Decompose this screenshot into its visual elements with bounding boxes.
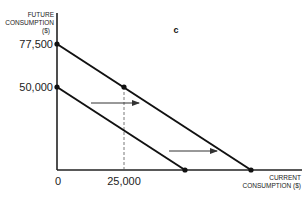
panel-label: c	[173, 25, 178, 35]
y-axis-title-line3: ($)	[42, 27, 50, 35]
x-tick-25000: 25,000	[107, 175, 141, 187]
point-y-77500	[54, 41, 59, 46]
budget-line-original	[57, 87, 185, 170]
point-x-original	[182, 167, 187, 172]
point-x-shifted	[248, 167, 253, 172]
point-y-50000	[54, 84, 59, 89]
point-25000-50000	[121, 84, 126, 89]
x-axis-title-line2: CONSUMPTION ($)	[243, 182, 302, 190]
y-axis-title-line2: CONSUMPTION	[5, 19, 54, 26]
x-axis-title-line1: CURRENT	[269, 174, 301, 181]
y-axis-title-line1: FUTURE	[28, 11, 55, 18]
y-tick-50000: 50,000	[19, 81, 53, 93]
budget-line-chart: FUTURE CONSUMPTION ($) 77,500 50,000 0 2…	[0, 0, 303, 206]
y-tick-77500: 77,500	[19, 38, 53, 50]
x-tick-0: 0	[55, 175, 61, 187]
